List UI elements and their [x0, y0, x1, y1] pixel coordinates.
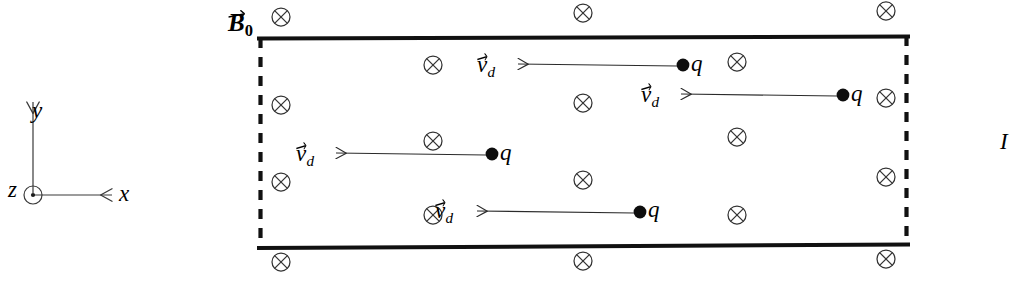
charge-label-2: q: [851, 82, 863, 105]
magnetic-field-into-page-icon: [574, 171, 592, 189]
charge-dot-1: [677, 59, 690, 72]
magnetic-field-into-page-icon: [877, 2, 895, 20]
magnetic-field-into-page-icon: [574, 4, 592, 22]
drift-velocity-label-3: vd: [296, 142, 314, 168]
charge-dot-4: [634, 206, 647, 219]
magnetic-field-symbol-group: [272, 2, 895, 271]
physics-figure: B0 I x y z vd q vd q vd q vd q: [0, 0, 1024, 281]
charge-group: [336, 59, 849, 219]
charge-dot-3: [486, 148, 499, 161]
magnetic-field-into-page-icon: [272, 253, 290, 271]
charge-3: [336, 148, 498, 161]
magnetic-field-into-page-icon: [424, 56, 442, 74]
conductor-top-edge: [259, 37, 908, 39]
drift-velocity-arrow-4: [477, 211, 634, 213]
x-axis-label: x: [119, 182, 129, 205]
magnetic-field-into-page-icon: [272, 96, 290, 114]
charge-label-1: q: [691, 52, 703, 75]
magnetic-field-into-page-icon: [424, 132, 442, 150]
magnetic-field-into-page-icon: [728, 206, 746, 224]
z-axis-label: z: [8, 178, 17, 201]
magnetic-field-into-page-icon: [877, 168, 895, 186]
current-label: I: [1000, 130, 1008, 153]
z-axis-dot-icon: [31, 193, 35, 197]
figure-canvas: [0, 0, 1024, 281]
drift-velocity-label-2: vd: [641, 83, 659, 109]
charge-4: [477, 206, 646, 219]
conductor-bottom-edge: [259, 245, 908, 249]
charge-label-3: q: [500, 141, 512, 164]
charge-2: [681, 89, 849, 102]
magnetic-field-into-page-icon: [574, 252, 592, 270]
drift-velocity-label-1: vd: [477, 53, 495, 79]
magnetic-field-into-page-icon: [728, 128, 746, 146]
magnetic-field-into-page-icon: [574, 94, 592, 112]
drift-velocity-arrow-3: [336, 153, 486, 155]
drift-velocity-label-4: vd: [435, 199, 453, 225]
y-axis-label: y: [32, 99, 42, 122]
magnetic-field-into-page-icon: [272, 8, 290, 26]
drift-velocity-arrow-2: [681, 94, 837, 96]
magnetic-field-into-page-icon: [272, 173, 290, 191]
charge-1: [518, 59, 689, 72]
charge-label-4: q: [648, 198, 660, 221]
magnetic-field-into-page-icon: [877, 250, 895, 268]
magnetic-field-label: B0: [228, 10, 253, 39]
magnetic-field-into-page-icon: [877, 89, 895, 107]
conductor-slab: [259, 36, 908, 249]
magnetic-field-into-page-icon: [728, 53, 746, 71]
drift-velocity-arrow-1: [518, 64, 677, 66]
charge-dot-2: [837, 89, 850, 102]
